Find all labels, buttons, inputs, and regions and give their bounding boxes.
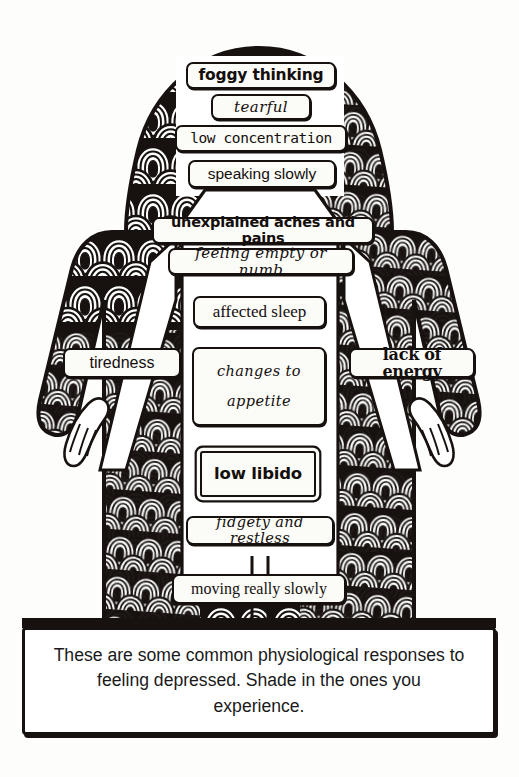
symptom-label-line: appetite: [198, 394, 320, 410]
symptom-label-unexplained-aches-and-pains[interactable]: unexplained aches and pains: [152, 217, 374, 244]
symptom-label-feeling-empty-or-numb[interactable]: feeling empty or numb: [168, 248, 354, 275]
symptom-label-text: fidgety and restless: [192, 515, 328, 546]
symptom-label-speaking-slowly[interactable]: speaking slowly: [188, 160, 336, 188]
symptom-label-text: low libido: [206, 465, 310, 483]
symptom-label-text: lack of energy: [355, 346, 469, 381]
symptom-label-lack-of-energy[interactable]: lack of energy: [349, 348, 475, 378]
symptom-label-foggy-thinking[interactable]: foggy thinking: [186, 62, 336, 89]
symptom-label-affected-sleep[interactable]: affected sleep: [193, 296, 326, 328]
symptom-label-text: feeling empty or numb: [174, 245, 348, 277]
symptom-label-text: tiredness: [69, 354, 175, 371]
symptom-label-low-libido[interactable]: low libido: [200, 451, 316, 497]
caption-text: These are some common physiological resp…: [25, 643, 493, 720]
symptom-label-text: foggy thinking: [192, 67, 330, 84]
symptom-label-low-concentration[interactable]: low concentration: [175, 125, 347, 152]
symptom-label-text: low concentration: [181, 131, 341, 147]
symptom-label-fidgety-and-restless[interactable]: fidgety and restless: [186, 516, 334, 545]
symptom-label-tiredness[interactable]: tiredness: [63, 348, 181, 378]
symptom-label-text: affected sleep: [199, 303, 320, 321]
symptom-label-tearful[interactable]: tearful: [211, 94, 311, 120]
symptom-label-changes-to-appetite[interactable]: changes toappetite: [192, 347, 326, 426]
symptom-label-line: changes to: [198, 364, 320, 380]
caption-box: These are some common physiological resp…: [22, 627, 496, 735]
worksheet-page: foggy thinkingtearfullow concentrationsp…: [0, 0, 519, 777]
symptom-label-text: tearful: [217, 99, 305, 115]
symptom-label-moving-really-slowly[interactable]: moving really slowly: [172, 574, 346, 604]
symptom-label-text: moving really slowly: [178, 580, 340, 597]
symptom-label-text: changes toappetite: [198, 364, 320, 409]
symptom-label-text: unexplained aches and pains: [158, 215, 368, 246]
symptom-label-text: speaking slowly: [194, 166, 330, 183]
